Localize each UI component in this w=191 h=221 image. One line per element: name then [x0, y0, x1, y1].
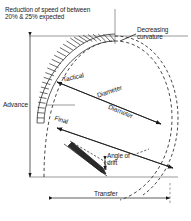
- speed-reduction-note: Reduction of speed of between20% & 25% e…: [5, 6, 90, 20]
- drift-label-leader-line: [133, 149, 149, 155]
- transfer-label: Transfer: [94, 190, 118, 197]
- speed-note-line1: Reduction of speed of between: [5, 6, 90, 13]
- advance-label: Advance: [3, 101, 28, 108]
- hatch-band-inner-arc: [44, 41, 115, 123]
- decreasing-curvature-note: Decreasingcurvature: [137, 26, 168, 40]
- ship-hull-shape: [68, 142, 106, 174]
- curvature-line2: curvature: [137, 33, 163, 40]
- curvature-line1: Decreasing: [137, 26, 168, 33]
- ship-heading-line: [64, 144, 107, 176]
- drift-line2: drift: [107, 159, 117, 166]
- turning-circle-diagram-page: Reduction of speed of between20% & 25% e…: [0, 0, 191, 221]
- speed-note-line2: 20% & 25% expected: [5, 13, 64, 20]
- drift-line1: Angle of: [107, 152, 130, 159]
- angle-of-drift-label: Angle ofdrift: [107, 152, 130, 166]
